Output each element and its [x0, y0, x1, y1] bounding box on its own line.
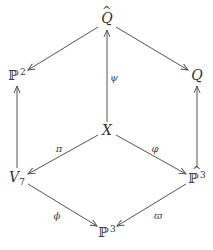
- node-p2: ℙ2: [8, 68, 25, 82]
- edge-label-psi: ψ: [110, 72, 118, 83]
- arrow-qhat-q: [116, 27, 188, 70]
- arrow-x-p3hat: [116, 135, 186, 174]
- edge-label-varphi: φ: [151, 143, 158, 154]
- edge-label-phi: ϕ: [54, 210, 61, 221]
- arrow-qhat-p2: [28, 27, 98, 70]
- node-p3-hat: ^ ℙ3: [188, 171, 205, 185]
- edge-label-pi: π: [56, 143, 63, 154]
- arrow-v7-p3: [28, 184, 97, 226]
- hat-accent: ^: [192, 165, 201, 176]
- hat-accent: ^: [102, 5, 111, 16]
- node-v7: V7: [9, 170, 25, 187]
- node-x: X: [102, 123, 112, 137]
- node-p3: ℙ3: [98, 225, 115, 239]
- arrow-x-v7: [28, 135, 98, 174]
- node-q: Q: [191, 68, 202, 82]
- node-q-hat: ^ Q: [101, 11, 112, 25]
- edge-label-varpi: ϖ: [154, 210, 162, 221]
- arrow-p3hat-p3: [117, 184, 186, 226]
